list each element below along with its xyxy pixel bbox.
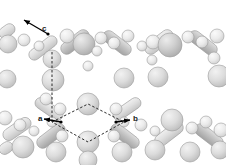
- atom-sphere: [122, 30, 134, 42]
- atom-sphere: [0, 111, 12, 125]
- atom-sphere: [60, 29, 74, 43]
- atom-sphere: [34, 41, 44, 51]
- atom-sphere: [150, 126, 160, 136]
- atom-sphere: [54, 103, 66, 115]
- atom-sphere: [148, 67, 168, 87]
- atom-sphere: [0, 35, 17, 53]
- axis-origin-dot-c: [46, 32, 49, 35]
- atom-sphere: [180, 142, 200, 162]
- atom-sphere: [14, 119, 26, 131]
- axis-label-a: a: [38, 115, 42, 123]
- atom-sphere: [211, 141, 226, 159]
- atom-sphere: [46, 142, 66, 162]
- atom-sphere: [79, 151, 97, 165]
- atom-sphere: [92, 46, 102, 56]
- atom-sphere: [200, 116, 212, 128]
- atom-sphere: [40, 93, 52, 105]
- axis-label-c: c: [42, 25, 46, 33]
- atom-sphere: [77, 93, 99, 115]
- atom-sphere: [147, 55, 157, 65]
- axis-origin-dot-b: [114, 120, 117, 123]
- atom-sphere: [208, 52, 220, 64]
- atom-sphere: [214, 123, 226, 137]
- atom-sphere: [182, 31, 194, 43]
- axis-label-b: b: [133, 115, 138, 123]
- atom-sphere: [114, 68, 134, 88]
- atom-sphere: [12, 136, 34, 158]
- structure-canvas: [0, 0, 226, 165]
- atom-sphere: [208, 65, 226, 87]
- atom-sphere: [56, 130, 68, 142]
- atom-sphere: [42, 69, 64, 91]
- atom-sphere: [95, 32, 107, 44]
- atom-sphere: [158, 33, 182, 57]
- atom-sphere: [145, 140, 165, 160]
- atom-sphere: [108, 37, 120, 49]
- atom-sphere: [29, 126, 39, 136]
- atom-sphere: [186, 122, 198, 134]
- atom-sphere: [0, 70, 16, 88]
- atom-sphere: [112, 142, 132, 162]
- atom-sphere: [108, 130, 120, 142]
- axis-origin-dot-a: [59, 120, 62, 123]
- atom-sphere: [196, 36, 208, 48]
- atom-sphere: [73, 33, 95, 55]
- atom-sphere: [83, 61, 93, 71]
- atom-sphere: [210, 29, 224, 43]
- atom-sphere: [137, 41, 147, 51]
- atom-sphere: [110, 103, 122, 115]
- atom-sphere: [18, 34, 30, 46]
- atom-sphere: [161, 109, 183, 131]
- crystal-structure-figure: a b c: [0, 0, 226, 165]
